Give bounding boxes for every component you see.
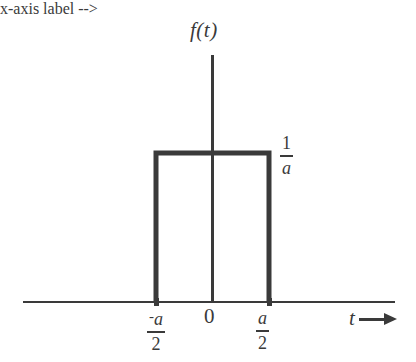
fraction-one-over-a: 1 a — [280, 134, 293, 178]
fraction-neg-a-over-2: -a 2 — [147, 309, 165, 354]
x-tick-label-right: a 2 — [256, 309, 269, 353]
tick-right-denominator: 2 — [256, 333, 269, 353]
figure-canvas: f(t) 1 a -a 2 0 a 2 x-axis label --> t — [0, 0, 416, 362]
tick-right-numerator: a — [256, 309, 269, 329]
fraction-bar — [256, 330, 269, 332]
x-axis-label: t — [349, 308, 397, 329]
tick-left-numerator: -a — [147, 309, 165, 330]
amplitude-numerator: 1 — [280, 134, 293, 154]
right-arrow-icon — [359, 313, 397, 325]
tick-left-symbol: a — [154, 309, 163, 329]
x-tick-label-left: -a 2 — [147, 309, 165, 354]
tick-left-denominator: 2 — [147, 334, 165, 354]
fraction-a-over-2: a 2 — [256, 309, 269, 353]
x-axis-label-symbol: t — [349, 308, 355, 329]
fraction-bar — [280, 155, 293, 157]
origin-label: 0 — [204, 306, 215, 327]
amplitude-denominator: a — [280, 158, 293, 178]
y-axis-label: f(t) — [190, 20, 218, 41]
amplitude-label: 1 a — [280, 134, 293, 178]
fraction-bar — [147, 331, 165, 333]
